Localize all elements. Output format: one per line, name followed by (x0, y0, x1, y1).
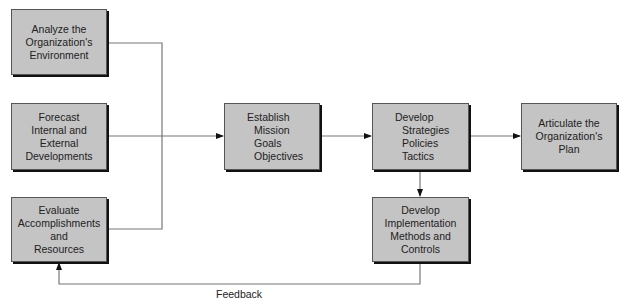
box-text: Plan (558, 143, 579, 156)
box-evaluate-accomplishments: Evaluate Accomplishments and Resources (11, 197, 107, 262)
box-text: Analyze the (32, 23, 87, 36)
box-forecast-developments: Forecast Internal and External Developme… (11, 103, 107, 170)
box-text: Develop (401, 204, 440, 217)
box-title: Develop (395, 111, 434, 124)
box-item: Goals (247, 137, 281, 150)
box-implementation-controls: Develop Implementation Methods and Contr… (372, 197, 469, 262)
box-articulate-plan: Articulate the Organization's Plan (521, 103, 617, 170)
box-establish-mission: Establish Mission Goals Objectives (224, 103, 320, 170)
box-item: Tactics (395, 150, 434, 163)
box-text: Controls (401, 243, 440, 256)
box-text: Resources (34, 243, 84, 256)
box-item: Mission (247, 124, 290, 137)
box-text: Articulate the (538, 117, 599, 130)
box-text: Developments (25, 150, 92, 163)
box-text: Evaluate (39, 204, 80, 217)
box-text: Internal and (31, 124, 86, 137)
box-develop-strategies: Develop Strategies Policies Tactics (372, 103, 469, 170)
box-text: Organization's (536, 130, 603, 143)
box-text: Forecast (39, 111, 80, 124)
feedback-arrow (59, 262, 420, 284)
feedback-label: Feedback (216, 288, 262, 300)
box-title: Establish (247, 111, 290, 124)
box-item: Policies (395, 137, 438, 150)
box-text: Implementation (385, 217, 457, 230)
box-analyze-environment: Analyze the Organization's Environment (11, 9, 107, 75)
box-item: Objectives (247, 150, 303, 163)
box-text: Methods and (390, 230, 451, 243)
box-text: Organization's (26, 36, 93, 49)
box-text: and (50, 230, 68, 243)
box-item: Strategies (395, 124, 449, 137)
box-text: Accomplishments (18, 217, 100, 230)
box-text: External (40, 137, 79, 150)
box-text: Environment (30, 49, 89, 62)
